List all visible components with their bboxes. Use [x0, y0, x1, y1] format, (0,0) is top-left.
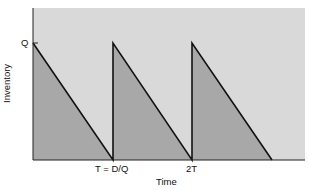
inventory-sawtooth-chart [0, 0, 309, 190]
x-tick-2t: 2T [186, 163, 197, 174]
x-tick-t: T = D/Q [95, 163, 128, 174]
y-axis-label: Inventory [1, 64, 12, 103]
y-tick-q: Q [21, 37, 28, 48]
x-axis-label: Time [156, 176, 177, 187]
